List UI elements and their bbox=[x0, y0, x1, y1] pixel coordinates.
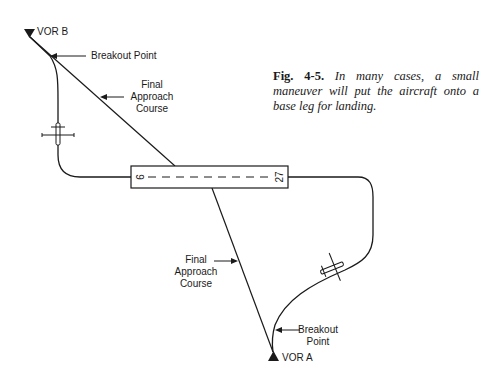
approach-diagram bbox=[0, 0, 484, 370]
fac-bottom-line-3: Course bbox=[168, 278, 224, 290]
fac-bottom-line-2: Approach bbox=[168, 266, 224, 278]
runway-number-right: 27 bbox=[274, 170, 286, 184]
fac-top-line-2: Approach bbox=[124, 91, 180, 103]
arrow-fac-top bbox=[100, 94, 124, 100]
vor-b-icon bbox=[24, 29, 35, 38]
breakout-bottom-line-2: Point bbox=[296, 336, 340, 348]
fac-bottom-line-1: Final bbox=[168, 254, 224, 266]
breakout-bottom-line-1: Breakout bbox=[296, 324, 340, 336]
fac-top-line-3: Course bbox=[124, 103, 180, 115]
figure-caption: Fig. 4-5. In many cases, a small maneuve… bbox=[273, 69, 479, 114]
vor-a-label: VOR A bbox=[282, 352, 313, 364]
aircraft-right-icon bbox=[315, 250, 348, 287]
breakout-point-top-label: Breakout Point bbox=[91, 50, 157, 62]
figure-number: Fig. 4-5. bbox=[273, 69, 324, 83]
arrow-breakout-top bbox=[50, 53, 86, 59]
vor-a-icon bbox=[268, 351, 279, 361]
breakout-point-bottom-label: Breakout Point bbox=[296, 324, 340, 348]
aircraft-left-icon bbox=[42, 123, 74, 145]
vor-b-label: VOR B bbox=[37, 26, 68, 38]
fac-bottom-label: Final Approach Course bbox=[168, 254, 224, 290]
fac-top-label: Final Approach Course bbox=[124, 79, 180, 115]
fac-top-line-1: Final bbox=[124, 79, 180, 91]
runway-number-left: 9 bbox=[133, 171, 145, 183]
